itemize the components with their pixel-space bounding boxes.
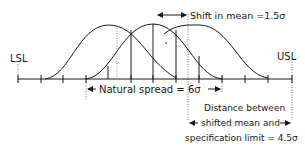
shift-in-mean-label: Shift in mean =1.5σ <box>190 10 285 21</box>
dot-marker <box>165 42 167 44</box>
right-shifted-curve <box>164 25 268 78</box>
left-shifted-curve <box>45 25 176 79</box>
usl-label: USL <box>277 51 297 62</box>
natural-spread-label: Natural spread = 6σ <box>99 84 201 95</box>
distance-label-line3: specification limit = 4.5σ <box>185 133 298 143</box>
distance-label-line2: shifted mean and <box>201 118 280 128</box>
lsl-label: LSL <box>10 53 28 64</box>
centered-curve <box>86 24 222 79</box>
distance-label-line1: Distance between <box>204 103 285 113</box>
process-shift-diagram: LSL USL Shift in mean =1.5σ Natural spre… <box>0 0 305 150</box>
